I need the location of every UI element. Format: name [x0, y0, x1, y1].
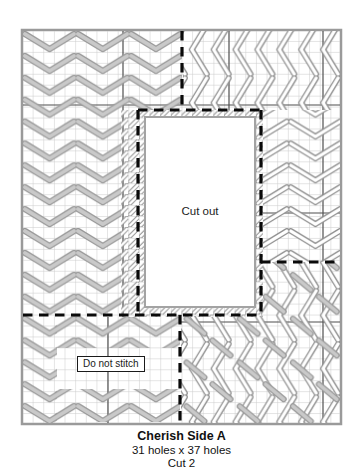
do-not-stitch-label: Do not stitch [77, 356, 145, 372]
cutout-label: Cut out [145, 205, 255, 217]
pattern-size: 31 holes x 37 holes [22, 443, 341, 457]
pattern-cut-count: Cut 2 [22, 457, 341, 470]
white-stitch-region-right [263, 110, 340, 262]
pattern-chart-svg [0, 0, 362, 471]
caption: Cherish Side A 31 holes x 37 holes Cut 2 [22, 429, 341, 470]
pattern-title: Cherish Side A [22, 429, 341, 443]
pattern-chart: Cut out Do not stitch Cherish Side A 31 … [0, 0, 362, 471]
white-stitch-region-top-right [183, 31, 340, 110]
